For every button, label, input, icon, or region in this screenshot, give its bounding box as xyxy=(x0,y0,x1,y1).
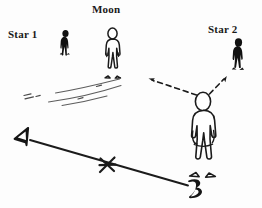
label-star-2: Star 2 xyxy=(208,24,237,35)
label-moon: Moon xyxy=(92,4,120,15)
moon-person-outline xyxy=(106,28,120,68)
observer-person-outline xyxy=(192,92,216,159)
parallax-diagram: Star 1 Moon Star 2 xyxy=(0,0,262,208)
moon-person-feet xyxy=(105,76,121,78)
ground-shadow-lines xyxy=(49,79,122,106)
observer-person-feet xyxy=(190,173,216,178)
label-star-1: Star 1 xyxy=(8,29,37,40)
sight-line-right-dashed xyxy=(210,79,225,94)
point-a-letter xyxy=(14,127,30,146)
star2-person-silhouette xyxy=(232,38,244,70)
x-mark-on-baseline xyxy=(100,158,116,173)
point-b-letter xyxy=(188,179,202,198)
star1-person-silhouette xyxy=(60,30,70,56)
sight-line-left-dashed xyxy=(152,80,197,95)
